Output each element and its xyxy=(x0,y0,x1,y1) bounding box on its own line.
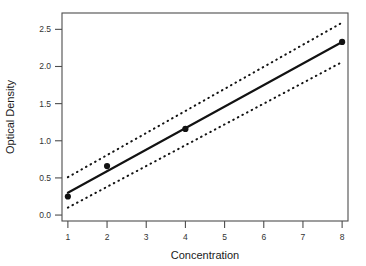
x-tick-label: 8 xyxy=(340,232,345,242)
data-point xyxy=(65,193,71,199)
chart-background xyxy=(0,0,366,266)
x-tick-label: 3 xyxy=(144,232,149,242)
x-tick-label: 1 xyxy=(66,232,71,242)
y-tick-label: 1.0 xyxy=(39,136,51,146)
y-tick-label: 0.5 xyxy=(39,173,51,183)
x-tick-label: 7 xyxy=(301,232,306,242)
y-tick-label: 0.0 xyxy=(39,210,51,220)
y-tick-label: 2.0 xyxy=(39,61,51,71)
y-tick-label: 2.5 xyxy=(39,24,51,34)
data-point xyxy=(104,163,110,169)
x-tick-label: 5 xyxy=(222,232,227,242)
x-tick-label: 6 xyxy=(261,232,266,242)
x-axis-title: Concentration xyxy=(171,249,240,261)
x-tick-label: 4 xyxy=(183,232,188,242)
x-tick-label: 2 xyxy=(105,232,110,242)
chart-container: 0.00.51.01.52.02.5 12345678 Concentratio… xyxy=(0,0,366,266)
y-axis-title: Optical Density xyxy=(4,80,16,154)
optical-density-chart: 0.00.51.01.52.02.5 12345678 Concentratio… xyxy=(0,0,366,266)
y-tick-label: 1.5 xyxy=(39,99,51,109)
